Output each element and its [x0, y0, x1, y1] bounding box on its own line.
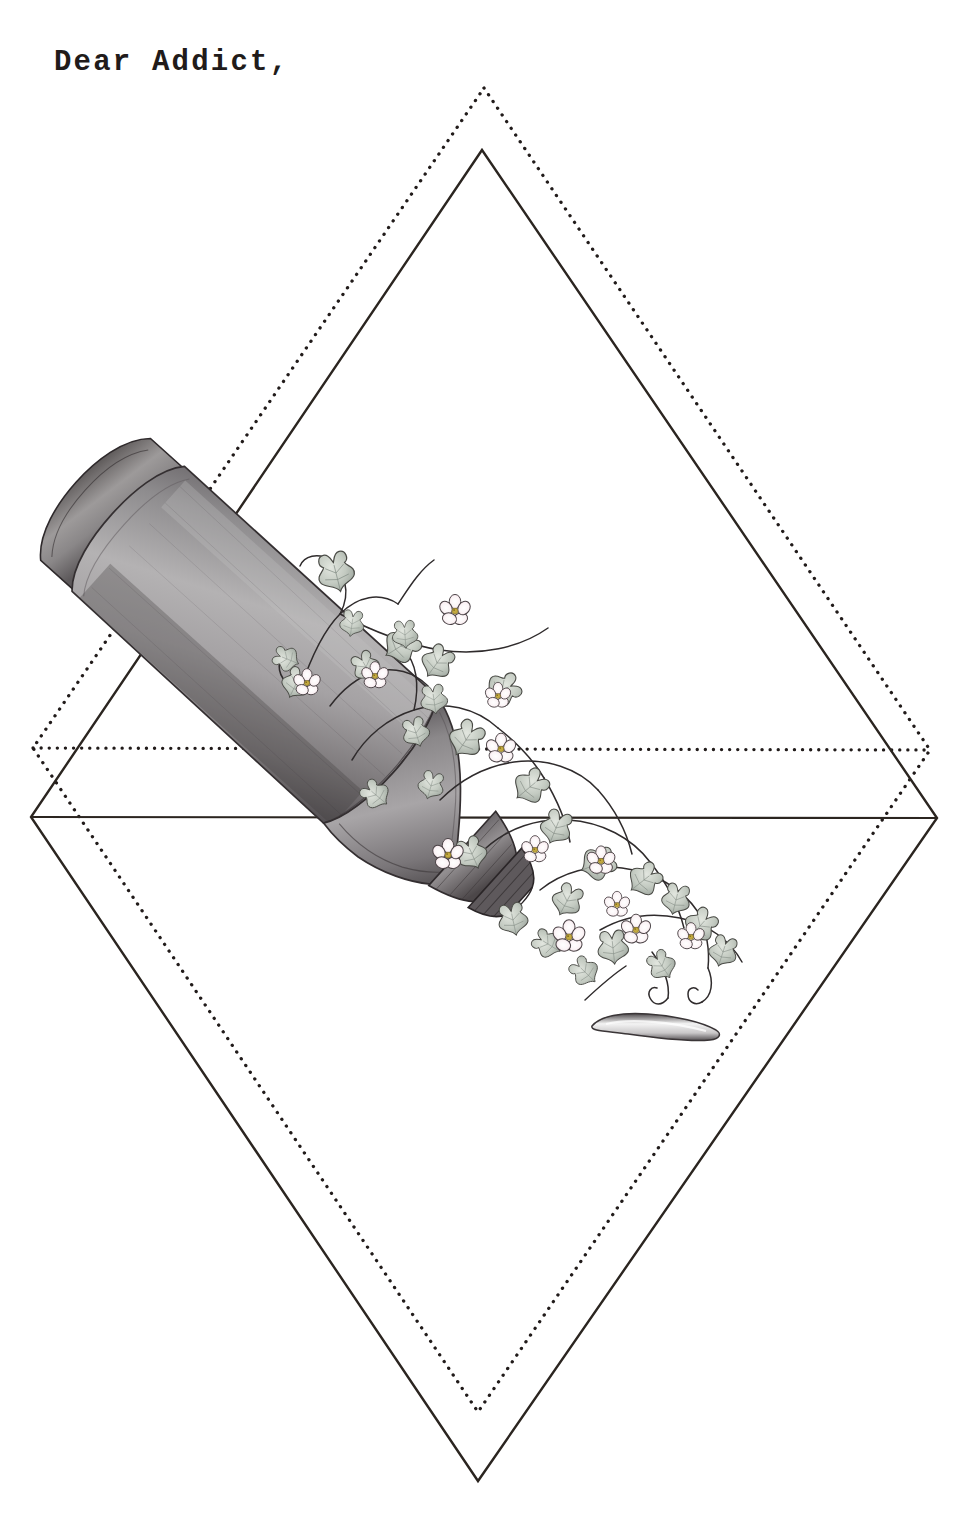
dotted-line-diamond [33, 88, 930, 1412]
artwork-canvas [0, 0, 972, 1514]
solid-line-diamond [31, 150, 937, 1481]
bottle-illustration [15, 420, 742, 1041]
illustration-page: Dear Addict, [0, 0, 972, 1514]
spilled-liquid-drop [592, 1014, 720, 1041]
dotted-horizontal-chord [33, 748, 930, 750]
solid-horizontal-chord [31, 817, 937, 818]
